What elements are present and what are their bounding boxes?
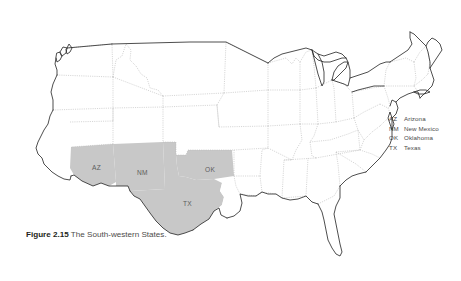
figure-caption-text: The South-western States. <box>71 230 167 239</box>
legend-name: Texas <box>404 143 421 153</box>
legend-abbr: AZ <box>389 114 404 124</box>
figure-caption: Figure 2.15 The South-western States. <box>26 229 216 240</box>
legend-name: New Mexico <box>404 124 439 134</box>
legend-abbr: OK <box>389 133 404 143</box>
national-outline-group <box>36 32 442 256</box>
legend-item-oklahoma: OK Oklahoma <box>389 133 459 143</box>
legend-item-texas: TX Texas <box>389 143 459 153</box>
figure-container: AZ NM OK TX AZ Arizona NM New Mexico OK … <box>0 0 461 281</box>
map-legend: AZ Arizona NM New Mexico OK Oklahoma TX … <box>389 114 459 152</box>
legend-abbr: TX <box>389 143 404 153</box>
legend-item-arizona: AZ Arizona <box>389 114 459 124</box>
state-shape-new-mexico <box>113 142 165 191</box>
state-shape-oklahoma <box>176 150 234 180</box>
legend-abbr: NM <box>389 124 404 134</box>
legend-name: Arizona <box>404 114 426 124</box>
legend-name: Oklahoma <box>404 133 433 143</box>
legend-item-new-mexico: NM New Mexico <box>389 124 459 134</box>
state-shape-arizona <box>70 144 116 186</box>
figure-number: Figure 2.15 <box>26 230 69 239</box>
